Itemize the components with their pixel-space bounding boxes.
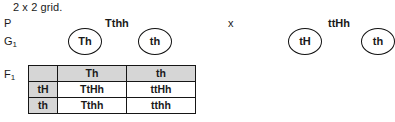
figure-caption: 2 x 2 grid. — [13, 1, 62, 14]
table-row: tH TtHh ttHh — [29, 82, 196, 98]
punnett-offspring-cell: ttHh — [127, 82, 196, 98]
gamete-generation-label-text: G — [4, 35, 13, 47]
gamete-circle: th — [138, 28, 172, 55]
punnett-column-header: Th — [58, 66, 127, 82]
parent-generation-label-text: P — [4, 17, 11, 29]
punnett-corner-cell — [29, 66, 58, 82]
table-row: Th th — [29, 66, 196, 82]
punnett-offspring-cell: TtHh — [58, 82, 127, 98]
parent-right-genotype: ttHh — [328, 17, 350, 29]
punnett-offspring-cell: tthh — [127, 98, 196, 114]
offspring-generation-label-text: F — [4, 68, 11, 80]
offspring-generation-label: F1 — [4, 68, 15, 82]
punnett-row-header: th — [29, 98, 58, 114]
punnett-square-table: Th th tH TtHh ttHh th Tthh tthh — [28, 65, 196, 114]
punnett-offspring-cell: Tthh — [58, 98, 127, 114]
gamete-circle: th — [361, 28, 395, 55]
punnett-row-header: tH — [29, 82, 58, 98]
table-row: th Tthh tthh — [29, 98, 196, 114]
parent-generation-label: P — [4, 17, 11, 29]
offspring-generation-label-subscript: 1 — [11, 73, 15, 82]
gamete-generation-label: G1 — [4, 35, 17, 49]
gamete-circle: tH — [288, 28, 322, 55]
punnett-square-diagram: 2 x 2 grid. P G1 F1 Tthh x ttHh Th th tH… — [0, 0, 395, 122]
cross-symbol: x — [228, 17, 234, 29]
gamete-circle: Th — [68, 28, 102, 55]
punnett-column-header: th — [127, 66, 196, 82]
parent-left-genotype: Tthh — [105, 17, 129, 29]
gamete-generation-label-subscript: 1 — [13, 40, 17, 49]
